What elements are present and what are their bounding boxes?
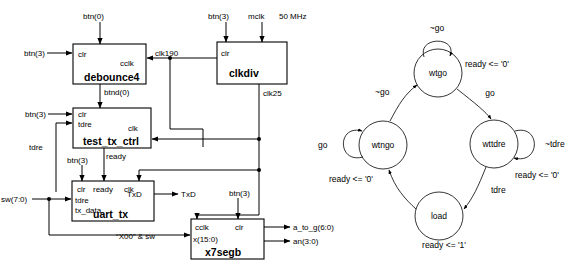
diagram-svg: btn(0) btn(3) clr cclk debounce4 btnd(0)… bbox=[0, 0, 582, 270]
label-btn0: btn(0) bbox=[83, 12, 104, 21]
label-50mhz: 50 MHz bbox=[279, 12, 307, 21]
state-output-wttdre: ready <= '0' bbox=[515, 170, 559, 180]
block-label-x7segb: x7segb bbox=[205, 246, 241, 258]
label-btnd0: btnd(0) bbox=[104, 88, 130, 97]
pin-uart-txd: TxD bbox=[127, 190, 142, 199]
label-clk25: clk25 bbox=[263, 89, 282, 98]
label-tdre-wire: tdre bbox=[29, 143, 43, 152]
label-btn3-testtx: btn(3) bbox=[25, 110, 46, 119]
block-label-debounce4: debounce4 bbox=[84, 71, 140, 83]
label-btn3-x7segb: btn(3) bbox=[229, 189, 250, 198]
pin-debounce-clr: clr bbox=[78, 50, 87, 59]
state-output-load: ready <= '1' bbox=[422, 240, 466, 250]
pin-x7segb-x: x(15:0) bbox=[193, 235, 218, 244]
label-concat: “X00” & sw bbox=[116, 232, 155, 241]
label-btn3-debounce: btn(3) bbox=[24, 49, 45, 58]
block-label-uart_tx: uart_tx bbox=[93, 208, 128, 220]
label-txd-out: TxD bbox=[181, 190, 196, 199]
block-label-clkdiv: clkdiv bbox=[229, 67, 259, 79]
state-label-wtngo: wtngo bbox=[371, 140, 395, 150]
transition-label-wtgo-self: ~go bbox=[430, 23, 445, 33]
transition-wtngo-wtgo bbox=[390, 85, 417, 121]
state-output-wtgo: ready <= '0' bbox=[465, 59, 509, 69]
transition-label-tdre: tdre bbox=[491, 185, 506, 195]
pin-x7segb-cclk: cclk bbox=[195, 223, 210, 232]
label-btn3-uart: btn(3) bbox=[67, 156, 88, 165]
label-clk190: clk190 bbox=[155, 49, 179, 58]
pin-testtx-clr: clr bbox=[78, 110, 87, 119]
pin-x7segb-clr: clr bbox=[235, 223, 244, 232]
pin-uart-tdre: tdre bbox=[75, 196, 89, 205]
pin-testtx-clk: clk bbox=[128, 124, 139, 133]
transition-label-ntdre: ~tdre bbox=[545, 139, 565, 149]
state-label-wttdre: wttdre bbox=[481, 139, 505, 149]
label-btn3-clkdiv: btn(3) bbox=[208, 12, 229, 21]
pin-debounce-cclk: cclk bbox=[120, 59, 135, 68]
transition-load-wtngo bbox=[389, 170, 416, 209]
label-ready-wire: ready bbox=[106, 152, 126, 161]
diagram-canvas: btn(0) btn(3) clr cclk debounce4 btnd(0)… bbox=[0, 0, 582, 270]
label-a-to-g: a_to_g(6:0) bbox=[293, 223, 334, 232]
block-label-test_tx_ctrl: test_tx_ctrl bbox=[83, 135, 139, 147]
pin-uart-ready: ready bbox=[93, 185, 113, 194]
state-label-load: load bbox=[431, 211, 447, 221]
transition-label-ngo: ~go bbox=[375, 87, 390, 97]
pin-uart-clr: clr bbox=[77, 185, 86, 194]
pin-testtx-tdre: tdre bbox=[78, 120, 92, 129]
transition-label-go: go bbox=[485, 88, 495, 98]
label-mclk: mclk bbox=[248, 12, 265, 21]
pin-clkdiv-clr: clr bbox=[221, 49, 230, 58]
label-sw: sw(7:0) bbox=[1, 195, 28, 204]
state-label-wtgo: wtgo bbox=[428, 68, 447, 78]
label-an: an(3:0) bbox=[293, 237, 319, 246]
state-output-wtngo: ready <= '0' bbox=[329, 174, 373, 184]
transition-wttdre-load bbox=[464, 167, 486, 209]
transition-label-go-self: go bbox=[318, 140, 328, 150]
